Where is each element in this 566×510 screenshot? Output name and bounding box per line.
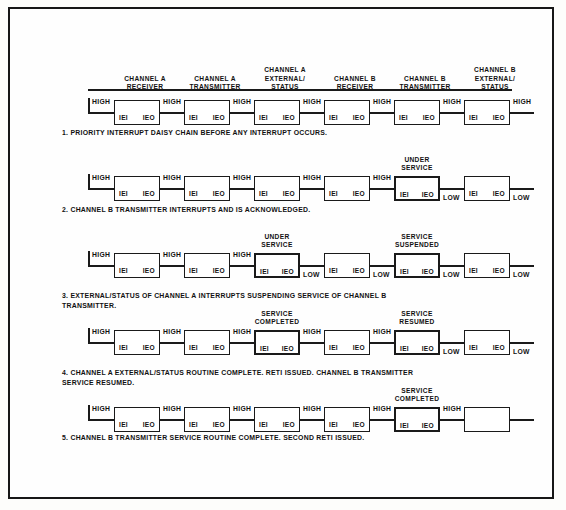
daisy-chain-box-6 bbox=[464, 407, 510, 432]
ieo-label: IEO bbox=[213, 344, 225, 351]
iei-label: IEI bbox=[400, 268, 409, 275]
chain-wire-5 bbox=[440, 265, 464, 267]
state-annotation-line: SERVICE bbox=[380, 233, 454, 241]
daisy-chain-box-3: IEIIEO bbox=[254, 176, 300, 201]
chain-wire-2 bbox=[230, 419, 254, 421]
chain-lead-wire bbox=[88, 419, 114, 421]
signal-level-label-3: HIGH bbox=[303, 98, 321, 105]
caption-line-2: TRANSMITTER. bbox=[62, 301, 532, 311]
chain-lead-wire bbox=[88, 342, 114, 344]
chain-wire-3 bbox=[300, 112, 324, 114]
ieo-label: IEO bbox=[143, 267, 155, 274]
chain-wire-3 bbox=[300, 188, 324, 190]
signal-level-label-5: HIGH bbox=[443, 98, 461, 105]
chain-wire-1 bbox=[160, 342, 184, 344]
daisy-chain-box-6: IEIIEO bbox=[464, 100, 510, 125]
iei-label: IEI bbox=[469, 190, 478, 197]
signal-level-label-1: HIGH bbox=[163, 251, 181, 258]
state-annotation-3: SERVICECOMPLETED bbox=[240, 310, 314, 327]
chain-wire-6 bbox=[510, 342, 534, 344]
iei-label: IEI bbox=[189, 344, 198, 351]
state-annotation-3: UNDERSERVICE bbox=[240, 233, 314, 250]
iei-label: IEI bbox=[469, 114, 478, 121]
state-annotation-line: SERVICE bbox=[240, 241, 314, 249]
column-header-line: CHANNEL A bbox=[246, 66, 324, 75]
iei-label: IEI bbox=[469, 344, 478, 351]
iei-label: IEI bbox=[259, 421, 268, 428]
daisy-chain-box-5: IEIIEO bbox=[394, 253, 440, 278]
ieo-label: IEO bbox=[143, 190, 155, 197]
state-annotation-line: SERVICE bbox=[240, 310, 314, 318]
chain-lead-wire bbox=[88, 188, 114, 190]
state-annotation-line: SERVICE bbox=[380, 387, 454, 395]
daisy-chain-box-3: IEIIEO bbox=[254, 407, 300, 432]
daisy-chain-box-2: IEIIEO bbox=[184, 100, 230, 125]
daisy-chain-box-2: IEIIEO bbox=[184, 407, 230, 432]
ieo-label: IEO bbox=[143, 344, 155, 351]
ieo-label: IEO bbox=[422, 268, 434, 275]
daisy-chain-box-5: IEIIEO bbox=[394, 407, 440, 432]
iei-label: IEI bbox=[189, 267, 198, 274]
ieo-label: IEO bbox=[493, 267, 505, 274]
iei-label: IEI bbox=[260, 345, 269, 352]
signal-level-label-2: HIGH bbox=[233, 98, 251, 105]
state-annotation-line: RESUMED bbox=[380, 318, 454, 326]
row-4-chain: HIGHIEIIEOHIGHIEIIEOHIGHIEIIEOHIGHSERVIC… bbox=[88, 322, 518, 368]
column-headers: CHANNEL ARECEIVERCHANNEL ATRANSMITTERCHA… bbox=[96, 52, 516, 92]
daisy-chain-box-2: IEIIEO bbox=[184, 176, 230, 201]
ieo-label: IEO bbox=[213, 267, 225, 274]
state-annotation-5: SERVICESUSPENDED bbox=[380, 233, 454, 250]
chain-wire-6 bbox=[510, 112, 534, 114]
state-annotation-5: UNDERSERVICE bbox=[380, 156, 454, 173]
daisy-chain-box-2: IEIIEO bbox=[184, 253, 230, 278]
row-3-caption: 3. EXTERNAL/STATUS OF CHANNEL A INTERRUP… bbox=[62, 291, 532, 310]
row-3-chain: HIGHIEIIEOHIGHIEIIEOHIGHIEIIEOLOWUNDERSE… bbox=[88, 245, 518, 291]
caption-line-2: SERVICE RESUMED. bbox=[62, 378, 532, 388]
daisy-chain-box-5: IEIIEO bbox=[394, 100, 440, 125]
chain-wire-1 bbox=[160, 112, 184, 114]
lead-level-label: HIGH bbox=[92, 328, 110, 335]
signal-level-label-4: HIGH bbox=[373, 405, 391, 412]
caption-line-1: 2. CHANNEL B TRANSMITTER INTERRUPTS AND … bbox=[62, 206, 310, 213]
signal-level-label-5: LOW bbox=[443, 194, 460, 201]
column-header-line: EXTERNAL/ bbox=[246, 75, 324, 84]
row-4-caption: 4. CHANNEL A EXTERNAL/STATUS ROUTINE COM… bbox=[62, 368, 532, 387]
header-divider-rule bbox=[88, 89, 512, 91]
daisy-chain-box-2: IEIIEO bbox=[184, 330, 230, 355]
chain-lead-wire bbox=[88, 265, 114, 267]
state-annotation-line: COMPLETED bbox=[380, 395, 454, 403]
iei-label: IEI bbox=[329, 344, 338, 351]
row-4: HIGHIEIIEOHIGHIEIIEOHIGHIEIIEOHIGHSERVIC… bbox=[0, 322, 566, 368]
state-annotation-5: SERVICECOMPLETED bbox=[380, 387, 454, 404]
daisy-chain-box-6: IEIIEO bbox=[464, 330, 510, 355]
daisy-chain-box-3: IEIIEO bbox=[254, 253, 300, 278]
ieo-label: IEO bbox=[422, 191, 434, 198]
signal-level-label-4: LOW bbox=[373, 271, 390, 278]
iei-label: IEI bbox=[119, 344, 128, 351]
ieo-label: IEO bbox=[353, 344, 365, 351]
daisy-chain-box-5: IEIIEO bbox=[394, 330, 440, 355]
iei-label: IEI bbox=[119, 421, 128, 428]
lead-level-label: HIGH bbox=[92, 98, 110, 105]
daisy-chain-box-4: IEIIEO bbox=[324, 253, 370, 278]
row-5-caption: 5. CHANNEL B TRANSMITTER SERVICE ROUTINE… bbox=[62, 433, 532, 443]
chain-wire-5 bbox=[440, 419, 464, 421]
row-1-caption: 1. PRIORITY INTERRUPT DAISY CHAIN BEFORE… bbox=[62, 128, 532, 138]
ieo-label: IEO bbox=[353, 421, 365, 428]
daisy-chain-box-4: IEIIEO bbox=[324, 407, 370, 432]
chain-wire-6 bbox=[510, 188, 534, 190]
chain-wire-2 bbox=[230, 188, 254, 190]
ieo-label: IEO bbox=[213, 114, 225, 121]
lead-level-label: HIGH bbox=[92, 405, 110, 412]
signal-level-label-4: HIGH bbox=[373, 98, 391, 105]
chain-wire-4 bbox=[370, 265, 394, 267]
signal-level-label-5: LOW bbox=[443, 271, 460, 278]
column-header-line: CHANNEL B bbox=[456, 66, 534, 75]
chain-wire-2 bbox=[230, 342, 254, 344]
chain-wire-5 bbox=[440, 342, 464, 344]
chain-wire-3 bbox=[300, 265, 324, 267]
ieo-label: IEO bbox=[423, 114, 435, 121]
daisy-chain-box-4: IEIIEO bbox=[324, 330, 370, 355]
signal-level-label-6: LOW bbox=[513, 348, 530, 355]
chain-wire-6 bbox=[510, 419, 534, 421]
